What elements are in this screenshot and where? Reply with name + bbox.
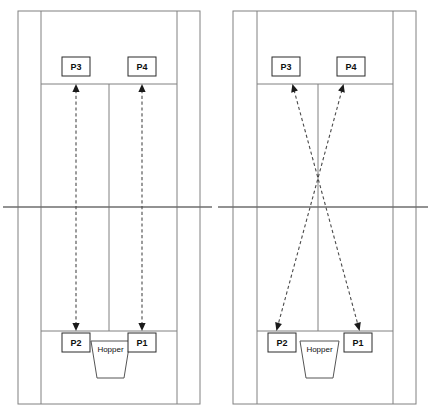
right-court: Hopper P3 P4 P2 P1 <box>218 11 428 404</box>
player-label-p2: P2 <box>70 338 81 348</box>
badminton-court-diagram: Hopper P3 P4 P2 P1 <box>0 0 430 415</box>
player-label-p4: P4 <box>136 62 147 72</box>
right-player-p2[interactable]: P2 <box>268 333 296 352</box>
player-label-p2: P2 <box>276 338 287 348</box>
arrowhead-down-p2 <box>72 323 79 331</box>
arrowhead-up-p3-right <box>291 84 298 93</box>
arrowhead-up-p3 <box>72 84 79 92</box>
left-player-p3[interactable]: P3 <box>62 57 90 76</box>
player-label-p3: P3 <box>70 62 81 72</box>
player-label-p3: P3 <box>280 62 291 72</box>
right-player-p4[interactable]: P4 <box>337 57 365 76</box>
right-player-p1[interactable]: P1 <box>344 333 372 352</box>
left-player-p2[interactable]: P2 <box>62 333 90 352</box>
hopper-label: Hopper <box>306 345 333 354</box>
right-player-p3[interactable]: P3 <box>272 57 300 76</box>
left-court: Hopper P3 P4 P2 P1 <box>3 11 212 404</box>
arrowhead-down-p1 <box>138 323 145 331</box>
arrowhead-up-p4 <box>138 84 145 92</box>
arrowhead-up-p4-right <box>338 84 345 93</box>
hopper-label: Hopper <box>97 345 124 354</box>
arrowhead-down-p2-right <box>275 322 282 331</box>
player-label-p1: P1 <box>136 338 147 348</box>
player-label-p1: P1 <box>352 338 363 348</box>
left-hopper: Hopper <box>91 341 130 378</box>
diagram-canvas: Hopper P3 P4 P2 P1 <box>0 0 430 415</box>
player-label-p4: P4 <box>345 62 356 72</box>
arrowhead-down-p1-right <box>354 322 361 331</box>
left-player-p4[interactable]: P4 <box>128 57 156 76</box>
right-hopper: Hopper <box>300 341 339 378</box>
left-player-p1[interactable]: P1 <box>128 333 156 352</box>
